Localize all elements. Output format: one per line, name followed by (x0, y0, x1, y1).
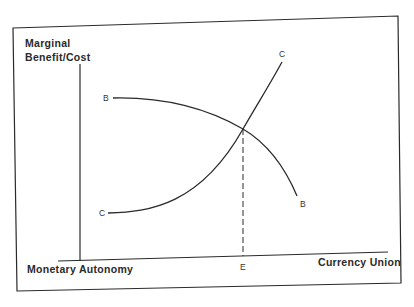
label-b-end: B (300, 199, 306, 209)
label-c-end: C (279, 49, 285, 59)
label-c-start: C (99, 208, 105, 218)
diagram-canvas: B B C C E Marginal Benefit/Cost Monetary… (0, 0, 414, 307)
x-axis-right-label: Currency Union (318, 256, 401, 268)
label-b-start: B (103, 93, 109, 103)
x-axis-left-label: Monetary Autonomy (27, 263, 133, 275)
benefit-curve-b (113, 98, 297, 196)
y-axis-label-line2: Benefit/Cost (25, 51, 91, 63)
y-axis-label-line1: Marginal (25, 37, 71, 49)
label-equilibrium: E (240, 262, 246, 272)
